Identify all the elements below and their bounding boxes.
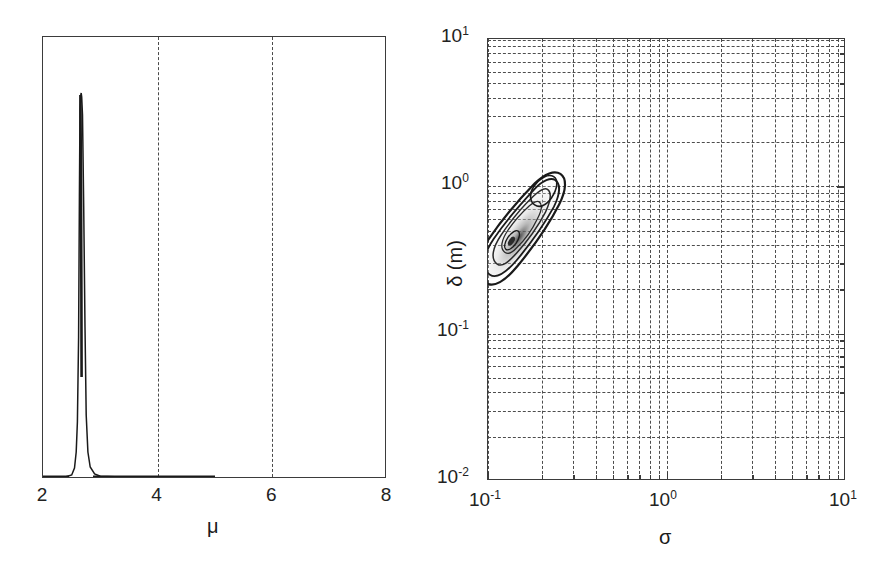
- right-panel: 101 100 10-1 10-2 10-1 100 101 σ δ (m): [437, 0, 874, 573]
- right-xaxis-title: σ: [659, 526, 671, 549]
- right-plot-area: [487, 38, 845, 480]
- right-xtick-1em1-base: 10: [469, 489, 490, 510]
- right-ytick-1em2-base: 10: [437, 466, 458, 487]
- right-xtick-1e0: 100: [649, 489, 677, 511]
- left-xtick-2: 2: [37, 484, 48, 506]
- right-ytick-1e1-exp: 1: [462, 24, 469, 38]
- right-xtick-1e0-base: 10: [649, 489, 670, 510]
- right-ytick-1e0-base: 10: [441, 172, 462, 193]
- right-xtick-1em1-exp: -1: [490, 488, 501, 502]
- right-xtick-1e1-exp: 1: [850, 488, 857, 502]
- posterior-contours: [488, 39, 845, 480]
- left-plot-area: [42, 36, 386, 478]
- right-ytick-1e0-exp: 0: [462, 171, 469, 185]
- right-xtick-1em1: 10-1: [469, 489, 501, 511]
- right-yaxis-title: δ (m): [444, 224, 467, 304]
- right-ytick-1em2-exp: -2: [458, 465, 469, 479]
- right-ytick-1em1-exp: -1: [458, 318, 469, 332]
- figure-root: 2 4 6 8 μ: [0, 0, 874, 573]
- right-ytick-1em2: 10-2: [437, 466, 469, 488]
- left-xtick-4: 4: [151, 484, 162, 506]
- right-ytick-1em1: 10-1: [437, 319, 469, 341]
- left-xaxis-title: μ: [207, 515, 219, 538]
- mu-density-curve: [43, 37, 386, 478]
- right-ytick-1e1: 101: [441, 25, 469, 47]
- right-xtick-1e1: 101: [829, 489, 857, 511]
- left-xtick-8: 8: [381, 484, 392, 506]
- right-xtick-1e0-exp: 0: [670, 488, 677, 502]
- right-ytick-1e0: 100: [441, 172, 469, 194]
- right-ytick-1e1-base: 10: [441, 25, 462, 46]
- left-panel: 2 4 6 8 μ: [0, 0, 437, 573]
- right-xtick-1e1-base: 10: [829, 489, 850, 510]
- left-xtick-6: 6: [266, 484, 277, 506]
- right-ytick-1em1-base: 10: [437, 319, 458, 340]
